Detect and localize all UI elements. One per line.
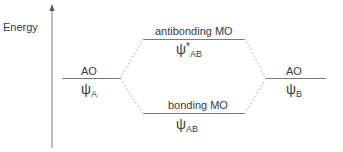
psi-b-label: ψB [286, 82, 302, 99]
bonding-label: bonding MO [168, 100, 228, 111]
psi-ab-label: ψAB [176, 117, 198, 134]
psi-subscript: A [91, 89, 97, 99]
connector-left-up [120, 40, 143, 79]
connector-right-up [245, 40, 266, 79]
psi-symbol: ψ [81, 81, 91, 97]
energy-axis-label: Energy [3, 22, 38, 33]
antibonding-label: antibonding MO [155, 26, 233, 37]
psi-ab-star-label: ψ*AB [176, 42, 202, 59]
psi-symbol: ψ [176, 41, 186, 57]
psi-subscript: AB [186, 124, 198, 134]
connector-right-down [245, 79, 266, 114]
connector-left-down [120, 79, 143, 114]
ao-left-label: AO [81, 66, 97, 77]
psi-symbol: ψ [176, 116, 186, 132]
energy-axis-arrow-icon [50, 4, 55, 11]
psi-symbol: ψ [286, 81, 296, 97]
psi-subscript: B [296, 89, 302, 99]
psi-a-label: ψA [81, 82, 97, 99]
psi-subscript: AB [190, 49, 202, 59]
ao-right-label: AO [286, 66, 302, 77]
